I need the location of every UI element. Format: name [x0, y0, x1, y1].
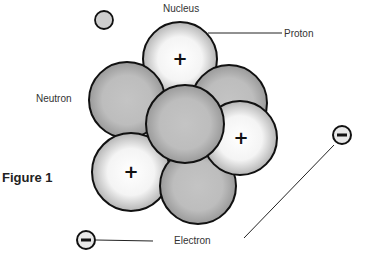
- neutron-center: [146, 85, 224, 163]
- electron-right: [333, 126, 351, 144]
- neutral-particle-icon: [95, 11, 113, 29]
- electron-label: Electron: [174, 235, 211, 246]
- proton-plus-icon: +: [233, 127, 248, 148]
- proton-plus-icon: +: [123, 161, 138, 182]
- neutron-label: Neutron: [36, 93, 72, 104]
- proton-label: Proton: [284, 28, 313, 39]
- minus-icon: [81, 239, 91, 242]
- electron-leader-line-left: [96, 240, 153, 241]
- figure-caption: Figure 1: [2, 170, 53, 185]
- nucleus-label: Nucleus: [163, 3, 199, 14]
- minus-icon: [337, 134, 347, 137]
- proton-plus-icon: +: [172, 48, 187, 69]
- electron-left: [77, 231, 95, 249]
